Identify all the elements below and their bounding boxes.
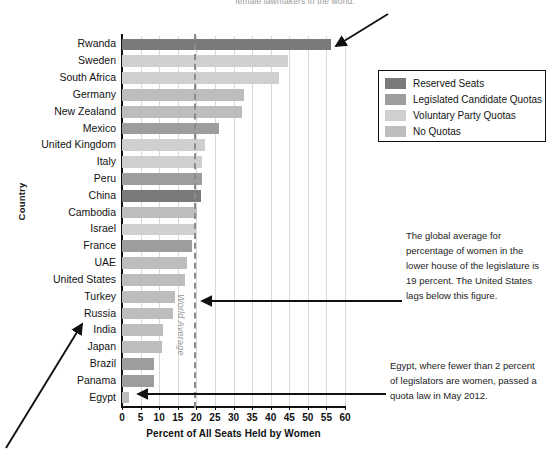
bar	[122, 324, 163, 336]
category-label: Germany	[0, 88, 116, 100]
annotation-egypt-text: Egypt, where fewer than 2 percent of leg…	[390, 360, 537, 401]
x-tick	[289, 406, 290, 410]
world-average-label: World Average	[176, 294, 186, 356]
legend-label: Voluntary Party Quotas	[413, 110, 516, 121]
category-label: France	[0, 239, 116, 251]
bar	[122, 106, 242, 118]
bar-row	[122, 224, 345, 236]
bar	[122, 291, 175, 303]
bar	[122, 55, 288, 67]
category-label: Peru	[0, 172, 116, 184]
bar	[122, 39, 331, 51]
legend-swatch	[385, 78, 406, 89]
bar	[122, 274, 185, 286]
world-average-dashed-line	[194, 34, 196, 408]
bar	[122, 308, 173, 320]
chart-figure: female lawmakers in the world. Country P…	[0, 0, 552, 456]
bar	[122, 190, 201, 202]
arrow-to-egypt	[132, 387, 390, 401]
bar-row	[122, 358, 345, 370]
category-label: Sweden	[0, 54, 116, 66]
bar	[122, 156, 202, 168]
category-label: Cambodia	[0, 206, 116, 218]
bar	[122, 392, 129, 404]
x-tick	[271, 406, 272, 410]
legend-swatch	[385, 94, 406, 105]
bar	[122, 224, 196, 236]
bar-row	[122, 173, 345, 185]
bar	[122, 173, 202, 185]
bar	[122, 89, 244, 101]
bar-row	[122, 308, 345, 320]
annotation-world-average: The global average for percentage of wom…	[406, 228, 546, 303]
bar	[122, 207, 197, 219]
x-tick	[234, 406, 235, 410]
category-label: South Africa	[0, 71, 116, 83]
bar	[122, 123, 219, 135]
legend-label: No Quotas	[413, 126, 461, 137]
annotation-world-average-text: The global average for percentage of wom…	[406, 230, 539, 301]
annotation-egypt: Egypt, where fewer than 2 percent of leg…	[390, 358, 542, 403]
category-label: New Zealand	[0, 105, 116, 117]
x-tick	[215, 406, 216, 410]
bar-row	[122, 156, 345, 168]
arrow-to-world-average	[196, 294, 406, 308]
legend-item: Voluntary Party Quotas	[385, 108, 539, 123]
category-label: China	[0, 189, 116, 201]
bar-row	[122, 139, 345, 151]
category-label: United States	[0, 273, 116, 285]
x-tick	[141, 406, 142, 410]
bar-row	[122, 257, 345, 269]
category-label: Israel	[0, 222, 116, 234]
x-tick	[326, 406, 327, 410]
bar-row	[122, 190, 345, 202]
bar	[122, 72, 279, 84]
bar-row	[122, 39, 345, 51]
x-tick	[159, 406, 160, 410]
bar-row	[122, 89, 345, 101]
bar	[122, 240, 192, 252]
legend: Reserved SeatsLegislated Candidate Quota…	[378, 70, 546, 142]
bar-row	[122, 72, 345, 84]
bar-row	[122, 375, 345, 387]
x-tick	[122, 406, 123, 410]
category-label: Italy	[0, 155, 116, 167]
x-tick	[308, 406, 309, 410]
arrow-to-japan	[2, 318, 92, 452]
gridline	[345, 36, 346, 406]
plot-area: 051015202530354045505560 World Average	[122, 36, 345, 406]
arrow-to-rwanda	[330, 8, 392, 56]
legend-label: Reserved Seats	[413, 78, 484, 89]
x-tick-label: 60	[333, 412, 357, 423]
bar-row	[122, 123, 345, 135]
top-caption: female lawmakers in the world.	[190, 0, 400, 6]
bar	[122, 341, 162, 353]
legend-item: Reserved Seats	[385, 76, 539, 91]
bar-row	[122, 106, 345, 118]
legend-label: Legislated Candidate Quotas	[413, 94, 542, 105]
category-label: Mexico	[0, 122, 116, 134]
legend-swatch	[385, 126, 406, 137]
x-tick	[196, 406, 197, 410]
bar	[122, 358, 154, 370]
x-axis-title: Percent of All Seats Held by Women	[96, 428, 371, 439]
bar-row	[122, 341, 345, 353]
legend-item: Legislated Candidate Quotas	[385, 92, 539, 107]
category-label: UAE	[0, 256, 116, 268]
category-label: Rwanda	[0, 37, 116, 49]
bar	[122, 139, 205, 151]
x-tick	[252, 406, 253, 410]
bar-row	[122, 324, 345, 336]
category-label: United Kingdom	[0, 138, 116, 150]
bar-row	[122, 240, 345, 252]
bar-row	[122, 274, 345, 286]
bar	[122, 375, 154, 387]
x-tick	[178, 406, 179, 410]
category-label: Turkey	[0, 290, 116, 302]
bar-row	[122, 55, 345, 67]
category-label: Russia	[0, 307, 116, 319]
bar	[122, 257, 187, 269]
legend-item: No Quotas	[385, 124, 539, 139]
legend-swatch	[385, 110, 406, 121]
x-tick	[345, 406, 346, 410]
